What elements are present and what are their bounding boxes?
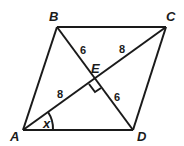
angle-label-x: x	[42, 116, 51, 131]
vertex-label-b: B	[49, 9, 58, 24]
segment-label-be: 6	[80, 44, 86, 56]
parallelogram-diagram: B C A D E 6 8 8 6 x	[0, 0, 184, 146]
segment-label-ed: 6	[114, 91, 120, 103]
vertex-label-e: E	[91, 61, 100, 76]
vertex-label-a: A	[9, 129, 19, 144]
segment-label-ae: 8	[57, 88, 63, 100]
segment-label-ec: 8	[119, 43, 125, 55]
vertex-label-d: D	[137, 129, 147, 144]
vertex-label-c: C	[166, 9, 176, 24]
edge-ab	[23, 27, 57, 130]
edge-cd	[133, 27, 166, 130]
